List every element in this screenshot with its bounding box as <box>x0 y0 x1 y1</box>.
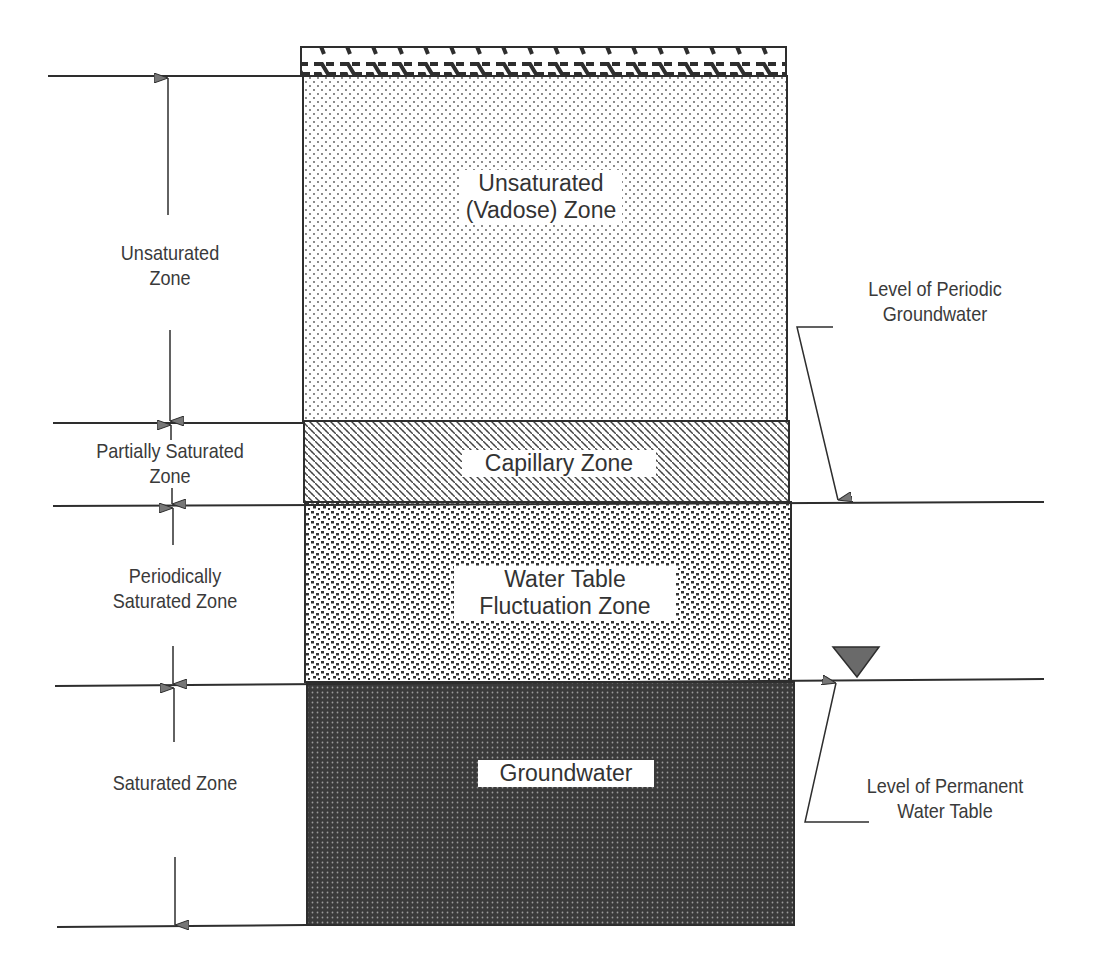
leader-arrows <box>797 327 869 822</box>
vadose-zone-label-line2: (Vadose) Zone <box>460 197 622 224</box>
fluctuation-zone-label: Water Table Fluctuation Zone <box>454 566 676 620</box>
fluctuation-zone-label-line1: Water Table <box>454 566 676 593</box>
periodic-leader-arrow <box>797 327 838 500</box>
ground-surface-cap <box>301 47 786 76</box>
permanent-water-table-label-line2: Water Table <box>838 798 1053 823</box>
water-table-triangle-icon <box>833 647 879 677</box>
periodic-groundwater-level-label-line1: Level of Periodic <box>832 276 1038 301</box>
saturated-zone-label: Saturated Zone <box>85 770 266 795</box>
unsaturated-zone-label-line2: Zone <box>84 265 256 290</box>
permanent-water-table-label-line1: Level of Permanent <box>838 773 1053 798</box>
periodic-groundwater-level-label: Level of Periodic Groundwater <box>832 276 1038 326</box>
vadose-zone-label-line1: Unsaturated <box>460 170 622 197</box>
periodically-saturated-zone-label: Periodically Saturated Zone <box>85 563 266 613</box>
periodic-groundwater-level-label-line2: Groundwater <box>832 301 1038 326</box>
groundwater-label-text: Groundwater <box>478 760 654 787</box>
unsaturated-zone-label: Unsaturated Zone <box>84 240 256 290</box>
unsaturated-zone-label-line1: Unsaturated <box>84 240 256 265</box>
capillary-zone-label: Capillary Zone <box>462 450 656 477</box>
partially-saturated-zone-label: Partially Saturated Zone <box>63 438 278 488</box>
vadose-zone-layer <box>303 76 787 421</box>
groundwater-label: Groundwater <box>478 760 654 787</box>
groundwater-layer <box>307 682 794 925</box>
periodically-saturated-zone-label-line2: Saturated Zone <box>85 588 266 613</box>
vadose-zone-label: Unsaturated (Vadose) Zone <box>460 170 622 224</box>
fluctuation-zone-label-line2: Fluctuation Zone <box>454 593 676 620</box>
partially-saturated-zone-label-line1: Partially Saturated <box>63 438 278 463</box>
saturated-zone-label-line1: Saturated Zone <box>85 770 266 795</box>
dimension-arrows <box>168 78 175 925</box>
periodically-saturated-zone-label-line1: Periodically <box>85 563 266 588</box>
partially-saturated-zone-label-line2: Zone <box>63 463 278 488</box>
permanent-water-table-label: Level of Permanent Water Table <box>838 773 1053 823</box>
capillary-zone-label-text: Capillary Zone <box>462 450 656 477</box>
